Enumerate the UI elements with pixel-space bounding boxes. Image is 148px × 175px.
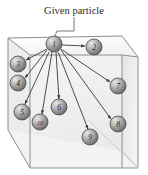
caption-leader-line xyxy=(55,17,74,36)
particle-node-2[interactable]: 2 xyxy=(86,39,102,55)
particle-label: 6 xyxy=(57,103,61,112)
particle-node-3[interactable]: 3 xyxy=(10,56,26,72)
particle-label: 3 xyxy=(15,60,20,69)
particle-node-10[interactable]: 10 xyxy=(32,114,48,130)
particle-label: 1 xyxy=(52,40,56,49)
cube-face-right xyxy=(122,55,138,168)
figure-caption: Given particle xyxy=(44,5,104,16)
particle-node-6[interactable]: 6 xyxy=(51,99,67,115)
particle-node-7[interactable]: 7 xyxy=(110,78,126,94)
particle-label: 9 xyxy=(88,133,92,142)
figure-canvas: 1 2 3 4 5 6 xyxy=(0,0,148,175)
particle-node-5[interactable]: 5 xyxy=(14,104,30,120)
particle-label: 7 xyxy=(116,82,120,91)
particle-node-4[interactable]: 4 xyxy=(10,75,26,91)
particle-label: 2 xyxy=(92,43,96,52)
particle-label: 10 xyxy=(37,119,44,126)
particle-label: 5 xyxy=(20,108,24,117)
cube-faces xyxy=(8,36,138,168)
particle-interaction-figure: 1 2 3 4 5 6 xyxy=(0,0,148,175)
particle-node-1[interactable]: 1 xyxy=(46,36,62,52)
particle-node-8[interactable]: 8 xyxy=(110,116,126,132)
particle-node-9[interactable]: 9 xyxy=(82,129,98,145)
particle-label: 4 xyxy=(16,79,20,88)
particle-label: 8 xyxy=(116,120,120,129)
